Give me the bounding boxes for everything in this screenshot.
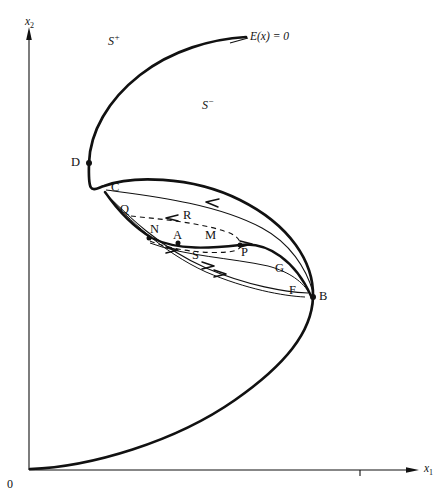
lower-loop-arrow-1 (202, 262, 214, 269)
point-label-D: D (71, 156, 80, 169)
region-label-s-minus: S− (202, 97, 214, 111)
point-label-G: G (275, 262, 284, 275)
point-label-N: N (150, 223, 159, 236)
point-dot-D (86, 160, 92, 166)
x-axis-label-sub: 1 (429, 468, 433, 477)
nullcline-equation-label: E(x) = 0 (250, 31, 289, 43)
point-label-S: S (192, 249, 199, 262)
y-axis-label: x2 (25, 16, 34, 30)
point-label-M: M (205, 229, 216, 242)
point-label-R: R (183, 209, 191, 222)
figure-canvas: x2 x1 0 S+ S− E(x) = 0 D C Q R N A M P S… (0, 0, 448, 501)
upper-loop-arrow (206, 199, 219, 207)
point-label-A: A (173, 229, 182, 242)
x-axis-label: x1 (424, 463, 433, 477)
point-label-P: P (241, 246, 248, 259)
point-label-F: F (289, 284, 296, 297)
x-axis-arrowhead (406, 467, 419, 473)
point-dot-N (147, 236, 152, 241)
region-label-s-plus: S+ (108, 33, 120, 47)
point-dot-B (310, 294, 316, 300)
phase-plane-svg (0, 0, 448, 501)
trajectory-group (104, 190, 313, 297)
point-label-B: B (319, 290, 327, 303)
s-plus-superscript: + (114, 32, 120, 42)
point-label-C: C (111, 181, 119, 194)
point-label-Q: Q (120, 203, 129, 216)
y-axis-label-sub: 2 (30, 21, 34, 30)
s-minus-superscript: − (208, 96, 214, 106)
origin-label: 0 (7, 478, 13, 490)
